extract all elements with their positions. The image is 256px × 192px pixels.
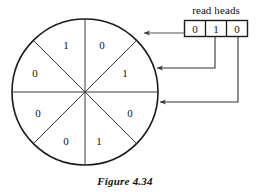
- figure-page: read heads 0 1 0 0 1 0 1 0 0 0 1 Figure …: [0, 0, 256, 192]
- disk-sector-left-upper-value: 0: [32, 68, 38, 79]
- disk-sector-right-lower-value: 0: [127, 108, 133, 119]
- disk-sector-left-lower-value: 0: [35, 108, 41, 119]
- disk-sector-bottom-left-value: 0: [63, 136, 69, 147]
- disk-sector-top-right-value: 0: [99, 40, 105, 51]
- read-head-cell-1-value[interactable]: 1: [213, 23, 219, 34]
- disk-sector-bottom-right-value: 1: [96, 136, 102, 147]
- read-head-cell-0-value[interactable]: 0: [192, 23, 198, 34]
- connector-head-2: [157, 37, 215, 69]
- read-head-cell-2-value[interactable]: 0: [234, 23, 240, 34]
- disk-sector-top-left-value: 1: [63, 40, 69, 51]
- figure-caption: Figure 4.34: [97, 176, 152, 187]
- read-heads-label: read heads: [192, 5, 240, 16]
- connector-head-3: [160, 37, 238, 103]
- disk-sector-right-upper-value: 1: [122, 68, 128, 79]
